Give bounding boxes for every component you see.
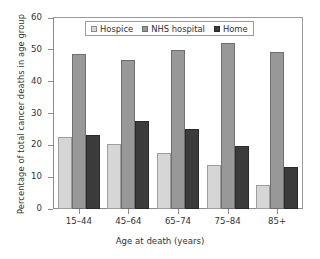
- legend-label: Home: [223, 24, 248, 34]
- legend-item: NHS hospital: [142, 24, 205, 34]
- y-axis-tick-label: 10: [2, 172, 42, 181]
- legend-swatch-icon: [214, 26, 220, 32]
- y-axis-tick: [48, 177, 53, 178]
- y-axis-tick-label: 30: [2, 109, 42, 118]
- bars-layer: [54, 18, 302, 209]
- bar: [135, 121, 149, 209]
- bar: [185, 129, 199, 209]
- bar-group: [157, 18, 199, 209]
- x-axis-tick-label: 85+: [247, 216, 307, 226]
- legend-swatch-icon: [91, 26, 97, 32]
- y-axis-tick-label: 20: [2, 140, 42, 149]
- y-axis-tick: [48, 209, 53, 210]
- y-axis-tick: [48, 18, 53, 19]
- y-axis-tick-label: 40: [2, 77, 42, 86]
- bar: [235, 146, 249, 209]
- bar-chart: Percentage of total cancer deaths in age…: [0, 0, 320, 259]
- legend-label: NHS hospital: [151, 24, 205, 34]
- legend-label: Hospice: [100, 24, 133, 34]
- y-axis-tick: [48, 49, 53, 50]
- bar: [284, 167, 298, 209]
- x-axis-tick: [178, 209, 179, 214]
- bar: [157, 153, 171, 209]
- x-axis-tick: [128, 209, 129, 214]
- chart-legend: HospiceNHS hospitalHome: [85, 21, 254, 36]
- y-axis-tick: [48, 81, 53, 82]
- bar: [58, 137, 72, 209]
- bar: [207, 165, 221, 209]
- x-axis-tick: [277, 209, 278, 214]
- y-axis-tick-label: 50: [2, 45, 42, 54]
- bar-group: [58, 18, 100, 209]
- bar: [221, 43, 235, 209]
- y-axis-tick: [48, 113, 53, 114]
- legend-swatch-icon: [142, 26, 148, 32]
- legend-item: Home: [214, 24, 248, 34]
- x-axis-tick: [228, 209, 229, 214]
- bar-group: [107, 18, 149, 209]
- bar-group: [207, 18, 249, 209]
- bar: [121, 60, 135, 209]
- y-axis-tick-label: 60: [2, 13, 42, 22]
- bar: [86, 135, 100, 209]
- x-axis-title: Age at death (years): [0, 236, 320, 246]
- y-axis-tick-label: 0: [2, 204, 42, 213]
- y-axis-tick: [48, 145, 53, 146]
- bar: [107, 144, 121, 209]
- legend-item: Hospice: [91, 24, 133, 34]
- bar: [270, 52, 284, 209]
- x-axis-tick: [79, 209, 80, 214]
- bar: [171, 50, 185, 209]
- bar: [72, 54, 86, 209]
- bar: [256, 185, 270, 209]
- bar-group: [256, 18, 298, 209]
